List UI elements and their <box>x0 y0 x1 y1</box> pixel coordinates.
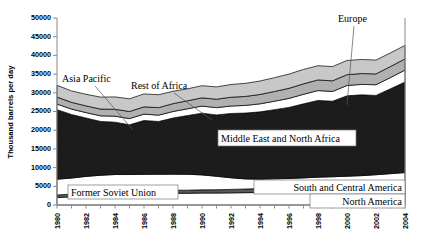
x-tick-label: 1986 <box>140 213 149 229</box>
y-tick-label: 0 <box>47 200 51 209</box>
annotation-label-europe: Europe <box>338 13 367 24</box>
annotation-label-former-soviet-union: Former Soviet Union <box>71 187 156 198</box>
y-tick-label: 5000 <box>35 181 51 190</box>
x-tick-label: 1988 <box>169 213 178 229</box>
y-tick-label: 25000 <box>31 106 51 115</box>
annotation-label-south-and-central-america: South and Central America <box>293 182 402 193</box>
y-tick-label: 35000 <box>31 69 51 78</box>
x-tick-label: 1990 <box>198 213 207 229</box>
y-tick-label: 20000 <box>31 125 51 134</box>
annotation-label-middle-east-and-north-africa: Middle East and North Africa <box>221 133 340 144</box>
x-tick-group: 1980198219841986198819901992199419961998… <box>53 205 410 229</box>
y-tick-label: 50000 <box>31 13 51 22</box>
x-tick-label: 1992 <box>227 213 236 229</box>
x-tick-label: 1984 <box>111 213 120 229</box>
x-tick-label: 1996 <box>285 213 294 229</box>
x-tick-label: 2004 <box>401 213 410 229</box>
y-tick-label: 45000 <box>31 32 51 41</box>
y-tick-label: 40000 <box>31 50 51 59</box>
annotation-label-asia-pacific: Asia Pacific <box>62 73 111 84</box>
x-tick-label: 1994 <box>256 213 265 229</box>
x-tick-label: 1980 <box>53 213 62 229</box>
annotation-label-north-america: North America <box>342 196 402 207</box>
x-tick-label: 2002 <box>372 213 381 229</box>
y-tick-label: 15000 <box>31 144 51 153</box>
y-tick-label: 10000 <box>31 163 51 172</box>
y-axis-title: Thousand barrels per day <box>6 65 15 159</box>
chart-canvas: 0500010000150002000025000300003500040000… <box>0 0 423 252</box>
x-tick-label: 1998 <box>314 213 323 229</box>
stacked-area-chart: 0500010000150002000025000300003500040000… <box>0 0 423 252</box>
x-tick-label: 2000 <box>343 213 352 229</box>
annotation-label-rest-of-africa: Rest of Africa <box>131 80 188 91</box>
x-tick-label: 1982 <box>82 213 91 229</box>
y-tick-group: 0500010000150002000025000300003500040000… <box>31 13 57 209</box>
y-tick-label: 30000 <box>31 88 51 97</box>
